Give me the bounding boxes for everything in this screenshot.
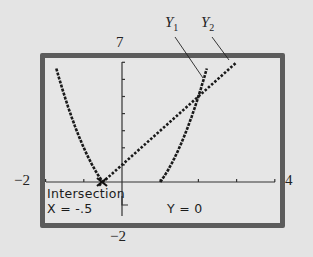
graph-plot xyxy=(0,0,313,257)
y2-callout-label: Y2 xyxy=(201,14,214,33)
y2-label-sub: 2 xyxy=(209,22,214,33)
y1-label-sub: 1 xyxy=(173,22,178,33)
xmin-label: −2 xyxy=(14,172,30,189)
axis-ticks xyxy=(46,62,275,182)
ymin-label: −2 xyxy=(110,228,126,245)
y2-leader-line xyxy=(212,37,229,60)
y1-callout-label: Y1 xyxy=(165,14,178,33)
ymax-label: 7 xyxy=(116,34,124,51)
curves xyxy=(56,62,236,185)
y-readout: Y = 0 xyxy=(167,201,203,216)
y1-leader-line xyxy=(175,37,203,78)
intersection-title: Intersection xyxy=(47,186,125,201)
x-readout: X = -.5 xyxy=(47,201,93,216)
xmax-label: 4 xyxy=(285,172,293,189)
